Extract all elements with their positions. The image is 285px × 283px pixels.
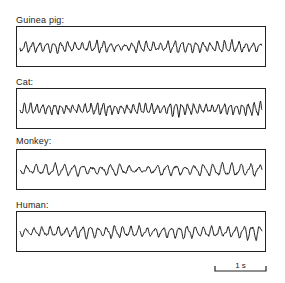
- eeg-trace-human: [16, 211, 266, 252]
- scale-bar-label: 1 s: [214, 262, 267, 270]
- eeg-trace-monkey: [16, 149, 266, 190]
- panel-label-monkey: Monkey:: [16, 136, 51, 146]
- eeg-trace-guinea-pig: [16, 26, 266, 67]
- panel-label-human: Human:: [16, 200, 49, 210]
- panel-label-cat: Cat:: [16, 77, 33, 87]
- panel-label-guinea-pig: Guinea pig:: [16, 15, 64, 25]
- time-scale-bar: 1 s: [214, 262, 267, 272]
- eeg-trace-cat: [16, 88, 266, 129]
